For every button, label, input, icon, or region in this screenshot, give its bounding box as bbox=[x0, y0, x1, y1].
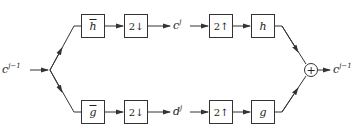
analysis-filter-g-box: g bbox=[81, 100, 105, 124]
signal-d-label: dj bbox=[173, 105, 182, 117]
downsample-bottom-box: 2↓ bbox=[124, 100, 148, 124]
signal-c-label: cj bbox=[173, 19, 181, 31]
downsample-top-box: 2↓ bbox=[124, 14, 148, 38]
synthesis-filter-g-box: g bbox=[251, 100, 275, 124]
analysis-filter-h-box: h bbox=[81, 14, 105, 38]
upsample-top-box: 2↑ bbox=[209, 14, 233, 38]
sum-junction-icon: + bbox=[304, 63, 318, 77]
input-signal-label: cj−1 bbox=[2, 63, 21, 75]
synthesis-filter-h-box: h bbox=[251, 14, 275, 38]
output-signal-label: cj−1 bbox=[333, 63, 352, 75]
upsample-bottom-box: 2↑ bbox=[209, 100, 233, 124]
